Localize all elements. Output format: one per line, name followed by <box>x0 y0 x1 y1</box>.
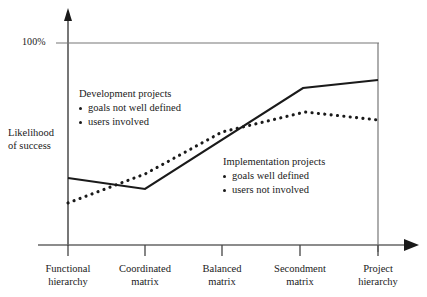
annotation-development-projects: Development projects goals not well defi… <box>79 87 181 129</box>
x-category-label-coordinated-matrix: Coordinated matrix <box>103 262 187 288</box>
chart-figure: 100% Likelihood of success Development p… <box>0 0 427 297</box>
x-category-label-line2: matrix <box>208 276 235 287</box>
bullet-dot-icon <box>79 107 82 110</box>
annotation-implementation-projects: Implementation projects goals well defin… <box>223 155 325 197</box>
annotation-development-bullet-2: users involved <box>79 115 181 129</box>
y-axis-arrow-icon <box>64 8 72 21</box>
x-category-label-line1: Project <box>363 263 393 274</box>
y-axis-title-line2: of success <box>8 140 51 151</box>
x-category-label-secondment-matrix: Secondment matrix <box>258 262 342 288</box>
bullet-dot-icon <box>223 175 226 178</box>
x-category-label-line1: Balanced <box>202 263 241 274</box>
annotation-implementation-bullet-2-text: users not involved <box>232 184 309 195</box>
x-category-label-functional-hierarchy: Functional hierarchy <box>26 262 110 288</box>
x-category-label-line2: hierarchy <box>48 276 88 287</box>
y-tick-label-100: 100% <box>22 36 46 48</box>
x-category-label-line2: hierarchy <box>358 276 398 287</box>
annotation-development-bullet-1: goals not well defined <box>79 101 181 115</box>
x-category-label-balanced-matrix: Balanced matrix <box>180 262 264 288</box>
x-axis-ticks <box>68 245 378 256</box>
x-axis-arrow-icon <box>404 239 419 251</box>
x-category-label-line1: Coordinated <box>119 263 171 274</box>
annotation-implementation-bullet-1-text: goals well defined <box>232 170 309 181</box>
annotation-development-bullet-2-text: users involved <box>88 116 149 127</box>
x-category-label-line2: matrix <box>131 276 158 287</box>
x-category-label-line2: matrix <box>286 276 313 287</box>
annotation-development-heading: Development projects <box>79 87 181 101</box>
x-category-label-project-hierarchy: Project hierarchy <box>336 262 420 288</box>
annotation-implementation-bullet-1: goals well defined <box>223 169 325 183</box>
x-category-label-line1: Functional <box>46 263 91 274</box>
annotation-implementation-bullet-2: users not involved <box>223 183 325 197</box>
chart-plot-area <box>0 0 427 297</box>
y-axis-title: Likelihood of success <box>8 126 54 152</box>
bullet-dot-icon <box>79 121 82 124</box>
y-axis-title-line1: Likelihood <box>8 127 54 138</box>
x-category-label-line1: Secondment <box>274 263 326 274</box>
annotation-development-bullet-1-text: goals not well defined <box>88 102 181 113</box>
annotation-implementation-heading: Implementation projects <box>223 155 325 169</box>
bullet-dot-icon <box>223 189 226 192</box>
